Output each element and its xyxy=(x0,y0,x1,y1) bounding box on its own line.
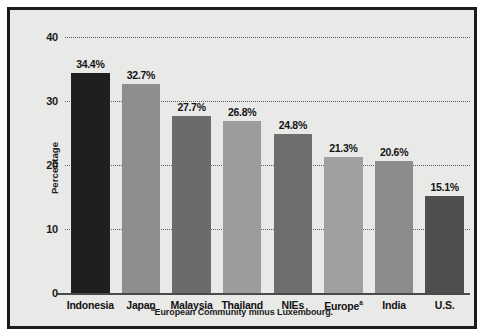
bar-group[interactable]: 32.7%Japan xyxy=(122,37,160,293)
bar-group[interactable]: 24.8%NIEs xyxy=(274,37,312,293)
footnote-text: European Community minus Luxembourg. xyxy=(155,307,333,317)
bar-value-label: 21.3% xyxy=(329,142,357,154)
bar-group[interactable]: 20.6%India xyxy=(375,37,413,293)
y-axis-tick-40: 40 xyxy=(46,31,58,43)
bar-group[interactable]: 26.8%Thailand xyxy=(223,37,261,293)
bar-value-label: 32.7% xyxy=(127,69,155,81)
bar-group[interactable]: 34.4%Indonesia xyxy=(71,37,109,293)
plot-area: 01020304034.4%Indonesia32.7%Japan27.7%Ma… xyxy=(65,37,470,293)
bar[interactable]: 34.4% xyxy=(71,73,109,293)
y-axis-tick-10: 10 xyxy=(46,223,58,235)
y-axis-tick-0: 0 xyxy=(52,287,58,299)
bar-value-label: 34.4% xyxy=(76,58,104,70)
x-axis-baseline xyxy=(57,293,470,295)
chart-figure: Percentage 01020304034.4%Indonesia32.7%J… xyxy=(7,7,477,329)
bar-value-label: 15.1% xyxy=(431,181,459,193)
bar[interactable]: 15.1% xyxy=(425,196,463,293)
bar-value-label: 20.6% xyxy=(380,146,408,158)
y-axis-tick-20: 20 xyxy=(46,159,58,171)
bar[interactable]: 27.7% xyxy=(172,116,210,293)
bar-value-label: 24.8% xyxy=(279,119,307,131)
bar-value-label: 27.7% xyxy=(177,101,205,113)
bar[interactable]: 24.8% xyxy=(274,134,312,293)
bar-group[interactable]: 21.3%Europea xyxy=(324,37,362,293)
bar-group[interactable]: 15.1%U.S. xyxy=(425,37,463,293)
bar[interactable]: 21.3% xyxy=(324,157,362,293)
bar[interactable]: 32.7% xyxy=(122,84,160,293)
y-axis-tick-30: 30 xyxy=(46,95,58,107)
bar[interactable]: 26.8% xyxy=(223,121,261,293)
bar-value-label: 26.8% xyxy=(228,106,256,118)
bar-group[interactable]: 27.7%Malaysia xyxy=(172,37,210,293)
chart-footnote: aEuropean Community minus Luxembourg. xyxy=(10,305,474,317)
bar[interactable]: 20.6% xyxy=(375,161,413,293)
